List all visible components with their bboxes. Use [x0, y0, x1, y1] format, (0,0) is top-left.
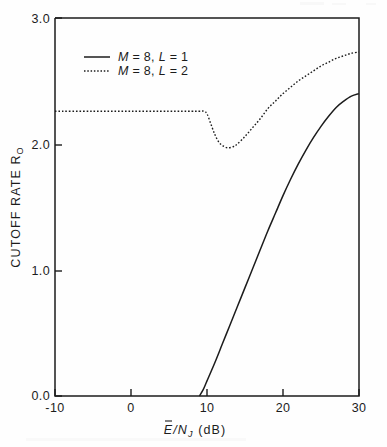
x-axis-title-slash: /N: [172, 423, 188, 437]
axis-frame: [55, 18, 359, 396]
svg-text:CUTOFF RATE RO: CUTOFF RATE RO: [9, 146, 25, 267]
y-axis-title-sub: O: [15, 146, 25, 154]
x-tick-label-0: -10: [45, 401, 64, 415]
y-tick-label-3: 3.0: [31, 12, 50, 26]
x-tick-label-1: 0: [127, 401, 134, 415]
legend-0-m: M: [118, 50, 129, 64]
y-tick-label-2: 2.0: [31, 138, 50, 152]
legend-0-mval: = 8,: [129, 50, 159, 64]
y-axis-ticks: [55, 18, 62, 396]
x-tick-label-4: 30: [352, 401, 367, 415]
figure-container: 0.0 1.0 2.0 3.0 -10 0 10 20 30 CUTOFF RA…: [0, 0, 387, 447]
svg-text:E/NJ (dB): E/NJ (dB): [164, 423, 226, 439]
series-group: [55, 52, 359, 396]
legend-1-m: M: [118, 64, 129, 78]
legend-1-mval: = 8,: [129, 64, 159, 78]
x-axis-title-main: E: [164, 423, 173, 437]
x-tick-label-2: 10: [200, 401, 215, 415]
legend: M = 8, L = 1 M = 8, L = 2: [84, 50, 188, 78]
x-axis-title: E/NJ (dB): [164, 421, 226, 439]
legend-0-lval: = 1: [166, 50, 188, 64]
x-axis-title-units: (dB): [198, 423, 226, 437]
y-axis-title: CUTOFF RATE RO: [9, 146, 25, 267]
legend-label-0: M = 8, L = 1: [118, 50, 188, 64]
legend-0-l: L: [159, 50, 166, 64]
series-line-m8-l2: [55, 52, 359, 148]
legend-1-lval: = 2: [166, 64, 188, 78]
x-axis-title-sub: J: [187, 429, 194, 439]
chart-svg: 0.0 1.0 2.0 3.0 -10 0 10 20 30 CUTOFF RA…: [0, 0, 387, 447]
x-tick-label-3: 20: [276, 401, 291, 415]
y-axis-title-main: CUTOFF RATE R: [9, 154, 23, 267]
series-line-m8-l1: [199, 94, 359, 396]
x-axis-ticks: [55, 389, 359, 396]
legend-label-1: M = 8, L = 2: [118, 64, 188, 78]
y-tick-label-1: 1.0: [31, 264, 50, 278]
legend-1-l: L: [159, 64, 166, 78]
